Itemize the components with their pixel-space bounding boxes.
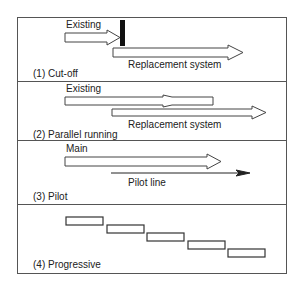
progressive-stage: [188, 241, 225, 249]
panel-caption: (1) Cut-off: [33, 68, 78, 79]
progressive-stage: [147, 233, 184, 241]
progressive-stage: [107, 225, 144, 233]
replacement-arrow: [113, 45, 243, 60]
panel-caption: (3) Pilot: [33, 191, 67, 202]
existing-label: Existing: [66, 83, 101, 94]
replacement-label: Replacement system: [128, 59, 221, 70]
main-arrow: [65, 154, 221, 169]
pilot-line-label: Pilot line: [128, 177, 166, 188]
existing-label: Existing: [66, 19, 101, 30]
existing-arrow: [65, 95, 213, 107]
cut-off-bar: [120, 20, 125, 46]
panel-caption: (2) Parallel running: [33, 129, 118, 140]
panel-caption: (4) Progressive: [33, 259, 101, 270]
progressive-stage: [66, 217, 103, 225]
panel-parallel-running: [65, 95, 266, 119]
replacement-arrow: [112, 106, 266, 119]
panel-progressive: [66, 217, 265, 257]
panel-pilot: [65, 154, 250, 176]
replacement-label: Replacement system: [128, 119, 221, 130]
diagram-canvas: [0, 0, 307, 287]
progressive-stage: [228, 249, 265, 257]
main-label: Main: [66, 143, 88, 154]
existing-arrow: [65, 30, 120, 45]
